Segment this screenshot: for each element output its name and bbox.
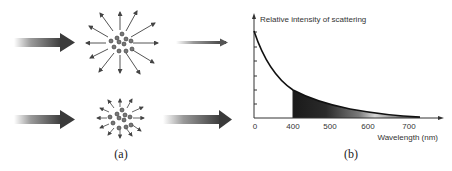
scatter-rays-long: [86, 11, 158, 74]
x-tick-0: 0: [253, 122, 258, 131]
incoming-beam-arrow-top: [14, 33, 75, 52]
x-axis-arrowhead-icon: [438, 116, 444, 120]
x-tick-500: 500: [323, 122, 337, 131]
y-axis-label: Relative intensity of scattering: [260, 15, 366, 24]
particles-bottom: [108, 108, 133, 130]
visible-spectrum-fill: [293, 90, 420, 118]
x-tick-700: 700: [402, 122, 416, 131]
caption-a: (a): [114, 147, 127, 161]
transmitted-beam-arrow-bottom: [163, 110, 232, 129]
x-tick-600: 600: [361, 122, 375, 131]
scattering-diagram: (a) Relative intensity of scattering 0 4…: [0, 0, 452, 171]
incoming-beam-arrow-bottom: [14, 110, 75, 129]
x-tick-400: 400: [286, 122, 300, 131]
y-axis-arrowhead-icon: [252, 13, 256, 19]
particles-top: [109, 32, 134, 53]
transmitted-beam-arrow-top: [176, 39, 228, 47]
scattering-cluster-strong: [86, 11, 158, 74]
x-axis-label: Wavelength (nm): [377, 133, 438, 142]
caption-b: (b): [344, 147, 358, 161]
x-axis-tick-labels: 0 400 500 600 700: [253, 122, 416, 131]
panel-b: Relative intensity of scattering 0 400 5…: [252, 13, 444, 161]
scattering-cluster-weak: [97, 99, 144, 138]
panel-a: (a): [14, 11, 232, 161]
scattering-intensity-curve: [254, 31, 420, 117]
